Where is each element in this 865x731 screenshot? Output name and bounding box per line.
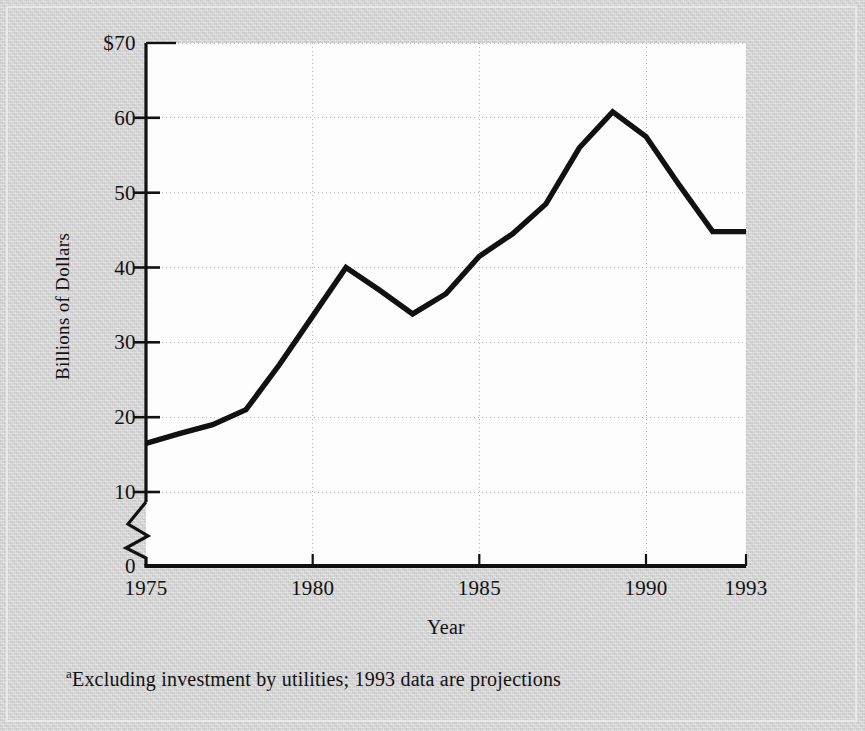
y-tick-label: 50 <box>114 182 136 203</box>
line-chart-figure: 0102030405060$70 19751980198519901993 Bi… <box>0 0 865 731</box>
y-tick-label: 40 <box>114 257 136 278</box>
figure-page: 0102030405060$70 19751980198519901993 Bi… <box>0 0 865 731</box>
footnote: aExcluding investment by utilities; 1993… <box>66 668 561 691</box>
x-axis-title: Year <box>146 616 746 639</box>
y-tick-label: 10 <box>114 482 136 503</box>
y-tick-label: $70 <box>103 33 136 54</box>
x-tick-label: 1985 <box>458 578 501 599</box>
y-tick-label: 60 <box>114 107 136 128</box>
y-tick-label: 0 <box>125 556 136 577</box>
y-axis-title: Billions of Dollars <box>52 354 252 380</box>
x-tick-label: 1975 <box>124 578 167 599</box>
chart-axes <box>96 28 796 598</box>
y-tick-label: 30 <box>114 332 136 353</box>
x-tick-label: 1993 <box>724 578 767 599</box>
footnote-text: Excluding investment by utilities; 1993 … <box>72 668 561 690</box>
x-tick-label: 1990 <box>624 578 667 599</box>
y-tick-label: 20 <box>114 407 136 428</box>
x-tick-label: 1980 <box>291 578 334 599</box>
